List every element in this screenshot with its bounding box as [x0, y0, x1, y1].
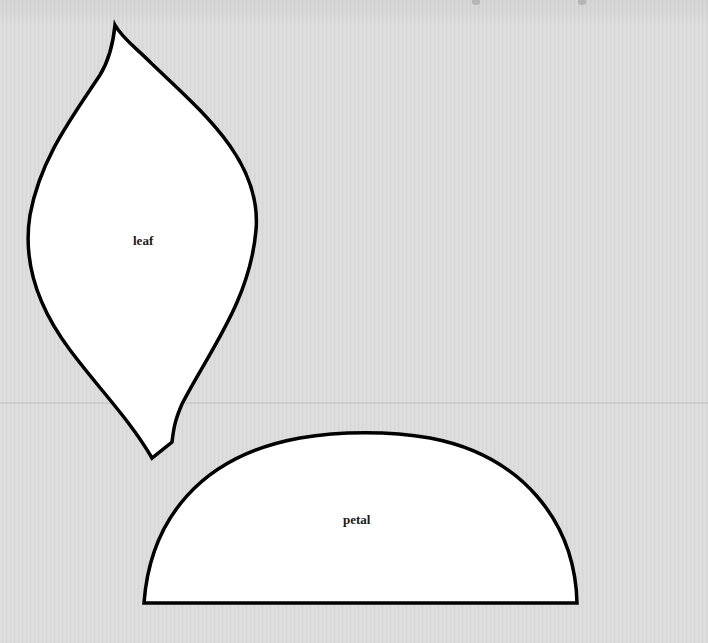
- leaf-label: leaf: [133, 233, 153, 249]
- petal-label: petal: [343, 512, 370, 528]
- paper-template-scan: leaf petal: [0, 0, 708, 643]
- shapes-layer: [0, 0, 708, 643]
